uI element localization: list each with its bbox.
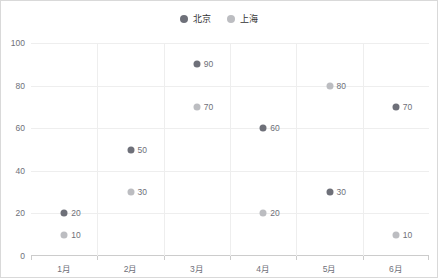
data-point[interactable]	[193, 103, 200, 110]
x-axis-tick	[296, 256, 297, 260]
data-point-label: 10	[403, 230, 412, 240]
data-point[interactable]	[127, 146, 134, 153]
y-axis-tick-label: 0	[20, 251, 25, 261]
chart-legend: 北京 上海	[1, 12, 437, 26]
x-axis-tick	[164, 256, 165, 260]
data-point[interactable]	[127, 189, 134, 196]
data-point-label: 70	[403, 102, 412, 112]
data-point[interactable]	[326, 189, 333, 196]
data-point[interactable]	[260, 210, 267, 217]
data-point[interactable]	[392, 103, 399, 110]
x-axis-tick-label: 3月	[190, 262, 204, 274]
x-axis-tick	[428, 256, 429, 260]
y-axis-tick-label: 80	[16, 81, 25, 91]
x-axis-tick	[31, 256, 32, 260]
data-point[interactable]	[392, 231, 399, 238]
legend-marker-icon	[180, 15, 188, 23]
y-axis-tick-label: 40	[16, 166, 25, 176]
y-axis-tick-label: 60	[16, 123, 25, 133]
gridline-vertical	[296, 43, 297, 256]
x-axis-tick	[97, 256, 98, 260]
data-point[interactable]	[193, 61, 200, 68]
legend-item-beijing[interactable]: 北京	[180, 15, 211, 24]
legend-label-shanghai: 上海	[240, 15, 258, 24]
data-point-label: 30	[337, 187, 346, 197]
x-axis-tick-label: 5月	[323, 262, 337, 274]
y-axis-tick-label: 100	[11, 38, 25, 48]
y-axis-tick-label: 20	[16, 208, 25, 218]
legend-marker-icon	[227, 15, 235, 23]
gridline-vertical	[230, 43, 231, 256]
data-point-label: 70	[204, 102, 213, 112]
data-point-label: 90	[204, 59, 213, 69]
x-axis-tick	[363, 256, 364, 260]
x-axis-tick-label: 2月	[124, 262, 138, 274]
data-point[interactable]	[61, 210, 68, 217]
data-point[interactable]	[260, 125, 267, 132]
data-point-label: 10	[71, 230, 80, 240]
data-point[interactable]	[326, 82, 333, 89]
scatter-chart: 北京 上海 0204060801001月2月3月4月5月6月2050906030…	[0, 0, 438, 278]
data-point-label: 30	[138, 187, 147, 197]
x-axis-tick-label: 6月	[389, 262, 403, 274]
gridline-vertical	[363, 43, 364, 256]
legend-label-beijing: 北京	[193, 15, 211, 24]
data-point[interactable]	[61, 231, 68, 238]
data-point-label: 50	[138, 145, 147, 155]
x-axis-tick	[230, 256, 231, 260]
x-axis-tick-label: 4月	[256, 262, 270, 274]
x-axis-tick-label: 1月	[57, 262, 71, 274]
legend-item-shanghai[interactable]: 上海	[227, 15, 258, 24]
plot-area: 0204060801001月2月3月4月5月6月2050906030701030…	[31, 43, 429, 256]
gridline-vertical	[164, 43, 165, 256]
gridline-vertical	[97, 43, 98, 256]
